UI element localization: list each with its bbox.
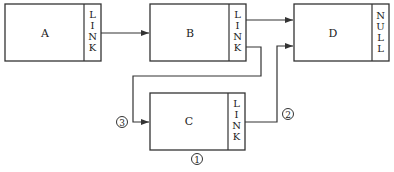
node-a: A L I N K [5, 4, 101, 61]
svg-text:I: I [235, 109, 239, 120]
svg-text:L: L [234, 9, 241, 20]
node-d: D N U L L [294, 4, 389, 61]
svg-text:N: N [233, 31, 242, 42]
svg-text:U: U [376, 21, 384, 32]
svg-text:I: I [236, 20, 240, 31]
node-d-label: D [329, 27, 338, 40]
node-c-label: C [185, 115, 193, 128]
node-d-null-field: N U L L [376, 10, 385, 54]
svg-text:I: I [91, 20, 95, 31]
svg-text:L: L [377, 32, 384, 43]
svg-text:3: 3 [119, 118, 125, 128]
svg-text:K: K [234, 42, 242, 53]
node-b: B L I N K [150, 4, 246, 61]
svg-text:L: L [89, 9, 96, 20]
node-a-link-field: L I N K [88, 9, 97, 53]
svg-text:1: 1 [194, 155, 200, 165]
svg-text:L: L [233, 98, 240, 109]
linked-list-diagram: A L I N K B L I N K D N U L L [0, 0, 394, 172]
svg-text:N: N [376, 10, 385, 21]
svg-text:N: N [88, 31, 97, 42]
step-marker-2: 2 [283, 109, 294, 120]
svg-text:N: N [232, 120, 241, 131]
svg-text:K: K [89, 42, 97, 53]
svg-text:K: K [233, 131, 241, 142]
step-marker-1: 1 [192, 154, 203, 165]
node-c-link-field: L I N K [232, 98, 241, 142]
step-marker-3: 3 [117, 117, 128, 128]
node-b-link-field: L I N K [233, 9, 242, 53]
node-a-label: A [40, 27, 50, 40]
node-b-label: B [186, 27, 194, 40]
svg-text:L: L [377, 43, 384, 54]
node-c: C L I N K [150, 93, 245, 150]
svg-text:2: 2 [285, 110, 291, 120]
